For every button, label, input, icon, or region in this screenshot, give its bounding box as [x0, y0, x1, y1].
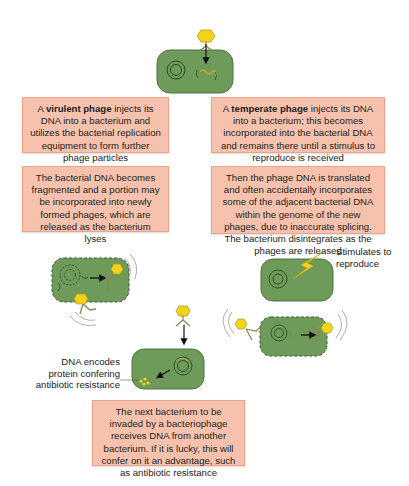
text: A	[37, 103, 46, 114]
bacterium-top	[157, 50, 233, 93]
stimulates-label: Stimulates to reproduce	[336, 246, 406, 269]
term-virulent: virulent phage	[46, 103, 112, 114]
bacterium-lysing-right	[223, 309, 347, 356]
next-bacterium-box: The next bacterium to be invaded by a ba…	[92, 400, 245, 466]
translation-box: Then the phage DNA is translated and oft…	[211, 166, 385, 234]
bacterium-lysing	[52, 254, 137, 326]
term-temperate: temperate phage	[231, 103, 308, 114]
bacterium-stimulated	[261, 251, 333, 301]
dna-encodes-label: DNA encodes protein confering antibiotic…	[30, 356, 120, 391]
lysis-box: The bacterial DNA becomes fragmented and…	[22, 166, 169, 232]
virulent-phage-box: A virulent phage injects its DNA into a …	[22, 97, 169, 153]
bacterium-bottom	[120, 349, 204, 389]
phage-bottom-icon	[176, 306, 190, 343]
temperate-phage-box: A temperate phage injects its DNA into a…	[211, 97, 385, 153]
